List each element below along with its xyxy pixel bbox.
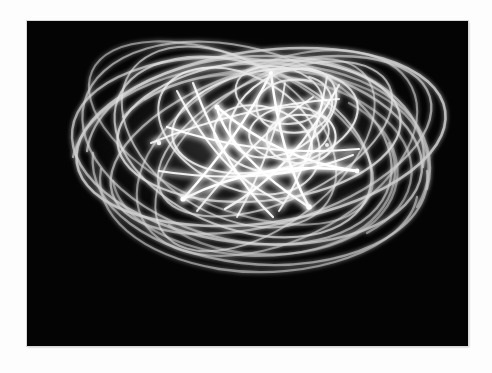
hot-node-5 [269,71,273,75]
hot-node-7 [325,143,329,147]
photo-page: White glowing curved light trails swirli… [0,0,492,373]
light-trail-canvas [27,21,468,346]
hot-node-1 [214,104,219,109]
hot-node-4 [306,204,312,210]
hot-node-6 [157,141,161,145]
photograph [27,21,468,346]
hot-node-3 [180,196,185,201]
hot-node-2 [355,169,360,174]
